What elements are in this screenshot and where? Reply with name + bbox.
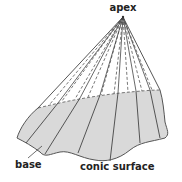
base-label: base: [15, 159, 42, 170]
conic-surface-diagram: apex base conic surface: [0, 0, 182, 182]
apex-label: apex: [109, 2, 137, 13]
apex-point: [122, 16, 124, 18]
conic-surface-label: conic surface: [80, 161, 155, 172]
